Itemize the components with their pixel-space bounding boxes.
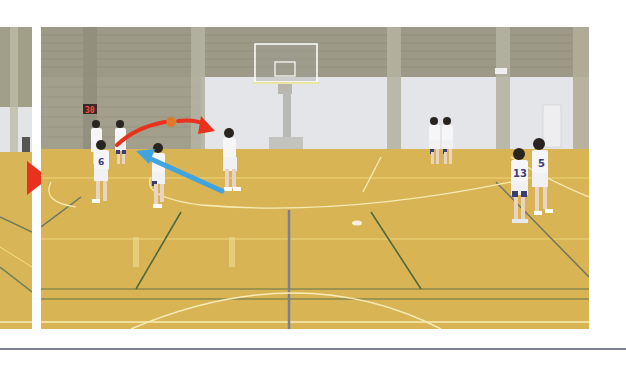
- page-rule-divider: [0, 348, 626, 350]
- shot-clock-text: 30: [85, 106, 95, 115]
- jersey-number-6: 6: [98, 157, 104, 167]
- photo-main-panel: 30: [41, 27, 589, 329]
- jersey-number-13: 13: [513, 168, 527, 179]
- basketball-icon: [166, 117, 176, 127]
- jersey-number-5: 5: [538, 158, 545, 169]
